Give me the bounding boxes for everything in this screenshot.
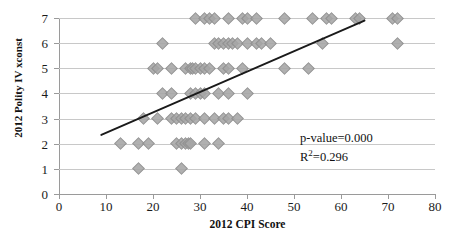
data-point (316, 37, 329, 50)
x-axis-tick-label: 0 (44, 200, 74, 213)
x-axis-tick-label: 50 (279, 200, 309, 213)
data-point (236, 62, 249, 75)
r-squared-text: R2=0.296 (300, 147, 373, 166)
data-point (156, 37, 169, 50)
r-squared-value: 0.296 (320, 150, 348, 164)
scatter-chart-figure: 01234567 01020304050607080 2012 Polity I… (0, 0, 450, 242)
x-axis-tick-label: 30 (185, 200, 215, 213)
y-axis-tick-label: 7 (22, 12, 48, 25)
x-axis-tick-label: 80 (420, 200, 450, 213)
data-point (302, 62, 315, 75)
y-axis-tick (54, 144, 59, 145)
y-axis-tick-label: 3 (22, 113, 48, 126)
data-point (212, 137, 225, 150)
data-point (151, 112, 164, 125)
gridline (59, 169, 435, 170)
data-point (165, 87, 178, 100)
data-point (391, 37, 404, 50)
x-axis-tick-label: 40 (232, 200, 262, 213)
data-point (222, 12, 235, 25)
data-point (241, 87, 254, 100)
data-point (278, 62, 291, 75)
x-axis-tick-label: 70 (373, 200, 403, 213)
y-axis-tick-label: 5 (22, 62, 48, 75)
data-point (133, 162, 146, 175)
data-point (114, 137, 127, 150)
data-point (142, 137, 155, 150)
p-value-text: p-value=0.000 (300, 130, 373, 147)
y-axis-tick (54, 119, 59, 120)
x-axis-tick-label: 10 (91, 200, 121, 213)
y-axis-tick (54, 169, 59, 170)
statistics-annotation: p-value=0.000 R2=0.296 (300, 130, 373, 166)
data-point (306, 12, 319, 25)
y-axis-tick (54, 93, 59, 94)
y-axis-tick-label: 6 (22, 37, 48, 50)
data-point (264, 37, 277, 50)
x-axis-tick-label: 20 (138, 200, 168, 213)
data-point (231, 112, 244, 125)
gridline (59, 119, 435, 120)
y-axis-tick-label: 2 (22, 138, 48, 151)
y-axis-tick (54, 68, 59, 69)
data-point (222, 87, 235, 100)
data-point (198, 137, 211, 150)
plot-area (59, 18, 435, 194)
y-axis-tick (54, 18, 59, 19)
data-point (165, 62, 178, 75)
y-axis-title: 2012 Polity IV xconst (12, 8, 24, 168)
y-axis-tick-label: 4 (22, 87, 48, 100)
y-axis-tick (54, 43, 59, 44)
x-axis-title: 2012 CPI Score (59, 218, 436, 230)
data-point (250, 12, 263, 25)
data-point (278, 12, 291, 25)
y-axis-tick-label: 1 (22, 163, 48, 176)
data-point (137, 112, 150, 125)
x-axis-tick-label: 60 (326, 200, 356, 213)
data-point (175, 162, 188, 175)
